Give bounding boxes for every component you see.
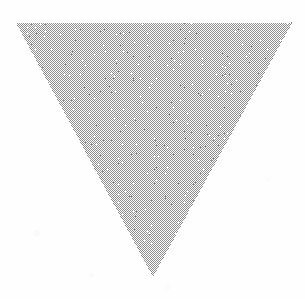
figure-canvas: 13 (0, 0, 305, 299)
triangle-polygon (16, 23, 292, 277)
shape-layer (0, 0, 305, 299)
inverted-triangle-shape (0, 0, 305, 299)
